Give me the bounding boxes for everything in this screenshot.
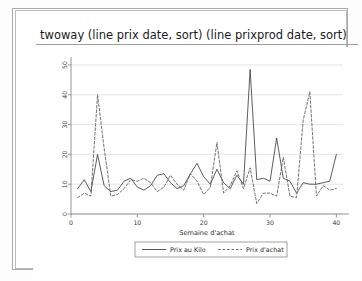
legend-label-2[interactable]: Prix d'achat [246, 246, 284, 254]
page-title: twoway (line prix date, sort) (line prix… [36, 25, 358, 45]
y-tick-label: 0 [61, 212, 68, 216]
data-series-layer [78, 69, 337, 203]
chart-legend[interactable]: Prix au KiloPrix d'achat [135, 242, 287, 257]
x-tick-label: 20 [200, 219, 208, 226]
x-tick-label: 0 [69, 219, 73, 226]
y-tick-label: 50 [61, 61, 68, 69]
x-tick-label: 40 [332, 219, 340, 226]
figure-inner-frame: twoway (line prix date, sort) (line prix… [15, 10, 347, 269]
x-axis-ticks: 010203040 [69, 214, 340, 226]
x-axis-title: Semaine d'achat [179, 229, 235, 237]
x-axis-title-text: Semaine d'achat [179, 229, 235, 237]
legend-label-1[interactable]: Prix au Kilo [170, 246, 206, 254]
series-line-2 [78, 92, 337, 204]
y-tick-label: 20 [61, 150, 68, 158]
series-line-1 [78, 69, 337, 193]
page-background: twoway (line prix date, sort) (line prix… [0, 0, 362, 281]
axes [71, 57, 349, 214]
x-tick-label: 10 [133, 219, 141, 226]
chart-canvas: 01020304050 010203040 Semaine d'achat Pr… [33, 47, 361, 279]
y-tick-label: 10 [61, 180, 68, 188]
x-tick-label: 30 [266, 219, 274, 226]
y-axis-ticks: 01020304050 [61, 61, 71, 216]
y-tick-label: 30 [61, 121, 68, 129]
y-tick-label: 40 [61, 91, 68, 99]
line-chart: 01020304050 010203040 Semaine d'achat Pr… [33, 47, 361, 279]
